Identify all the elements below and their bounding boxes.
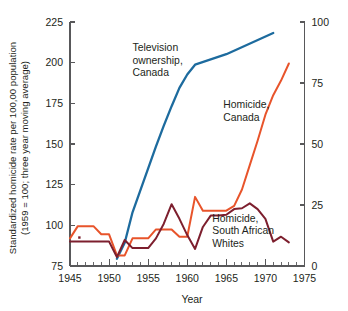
x-axis-tick-label: 1960 xyxy=(176,272,200,284)
series-marker-dot xyxy=(78,236,80,238)
y-axis-right-tick-label: 0 xyxy=(312,260,318,272)
y-axis-title-line-2: (1959 = 100; three year moving average) xyxy=(19,61,30,235)
y-axis-left-tick-label: 75 xyxy=(51,260,63,272)
annotation-line: South African xyxy=(212,225,274,236)
annotation-line: Whites xyxy=(212,238,244,249)
x-axis-title: Year xyxy=(181,293,203,305)
y-axis-left-tick-label: 150 xyxy=(45,138,63,150)
y-axis-title-line-1: Standardized homicide rate per 100,00 po… xyxy=(7,42,18,254)
y-axis-left-tick-label: 100 xyxy=(45,219,63,231)
annotation-line: Canada xyxy=(223,112,260,123)
x-axis-tick-label: 1950 xyxy=(97,272,121,284)
x-axis-tick-label: 1955 xyxy=(136,272,160,284)
homicide-television-line-chart: 75100125150175200225 0255075100 19451950… xyxy=(0,0,348,311)
y-axis-left-tick-label: 225 xyxy=(45,16,63,28)
y-axis-left-tick-label: 125 xyxy=(45,178,63,190)
annotation-line: Canada xyxy=(133,67,170,78)
y-axis-left-tick-label: 175 xyxy=(45,97,63,109)
y-axis-right-tick-label: 50 xyxy=(312,138,324,150)
x-axis-tick-label: 1970 xyxy=(254,272,278,284)
y-axis-right-tick-label: 100 xyxy=(312,16,330,28)
x-axis-tick-label: 1975 xyxy=(293,272,317,284)
annotation-line: Homicide, xyxy=(223,99,269,110)
y-axis-right-tick-label: 25 xyxy=(312,199,324,211)
annotation-line: ownership, xyxy=(133,55,183,66)
x-axis-tick-label: 1965 xyxy=(215,272,239,284)
annotation-line: Homicide, xyxy=(212,213,258,224)
annotation-line: Television xyxy=(133,42,179,53)
x-axis-tick-label: 1945 xyxy=(58,272,82,284)
chart-container: 75100125150175200225 0255075100 19451950… xyxy=(0,0,348,311)
y-axis-right-tick-label: 75 xyxy=(312,77,324,89)
y-axis-left-tick-label: 200 xyxy=(45,56,63,68)
